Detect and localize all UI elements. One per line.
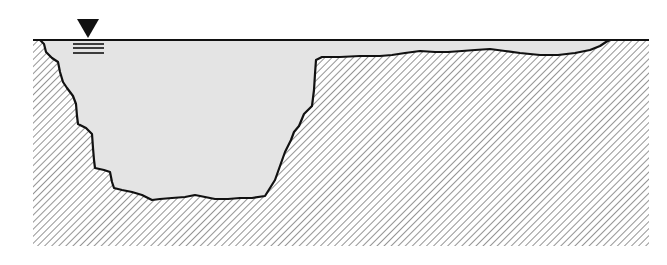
diagram-canvas bbox=[0, 0, 667, 265]
water-level-symbol bbox=[73, 19, 104, 53]
cross-section-diagram bbox=[0, 0, 667, 265]
water-level-triangle-icon bbox=[77, 19, 99, 38]
